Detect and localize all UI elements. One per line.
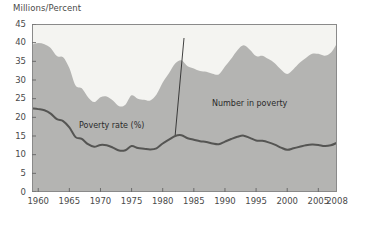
x-tick-label-1995: 1995 <box>241 196 271 206</box>
y-tick-label-30: 30 <box>2 75 26 85</box>
x-tick-label-1960: 1960 <box>23 196 53 206</box>
x-tick-label-2000: 2000 <box>272 196 302 206</box>
y-tick-label-0: 0 <box>2 187 26 197</box>
y-tick-label-5: 5 <box>2 168 26 178</box>
x-tick-label-1970: 1970 <box>85 196 115 206</box>
series-annotation-number-in-poverty: Number in poverty <box>212 99 287 108</box>
y-tick-label-20: 20 <box>2 112 26 122</box>
poverty-chart-figure: Millions/Percent 051015202530354045 1960… <box>0 0 365 226</box>
x-tick-label-1975: 1975 <box>117 196 147 206</box>
plot-area <box>32 24 337 192</box>
y-axis-title: Millions/Percent <box>13 3 81 13</box>
x-tick-label-1965: 1965 <box>54 196 84 206</box>
y-tick-label-40: 40 <box>2 37 26 47</box>
x-tick-label-2008: 2008 <box>322 196 352 206</box>
y-tick-label-35: 35 <box>2 56 26 66</box>
chart-canvas <box>32 24 337 192</box>
y-tick-label-25: 25 <box>2 93 26 103</box>
y-tick-label-15: 15 <box>2 131 26 141</box>
y-tick-label-10: 10 <box>2 149 26 159</box>
x-tick-label-1990: 1990 <box>210 196 240 206</box>
y-tick-label-45: 45 <box>2 19 26 29</box>
series-annotation-poverty-rate: Poverty rate (%) <box>79 121 144 130</box>
x-tick-label-1985: 1985 <box>179 196 209 206</box>
x-tick-label-1980: 1980 <box>148 196 178 206</box>
